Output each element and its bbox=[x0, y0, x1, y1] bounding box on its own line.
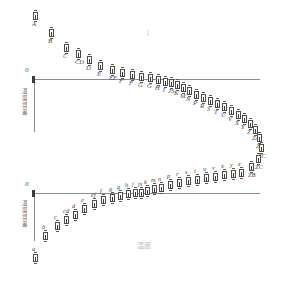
lower-y-axis-label: 温度误差 bbox=[20, 200, 29, 228]
error-bar-cap-bottom bbox=[178, 188, 181, 189]
error-bar-cap-bottom bbox=[205, 183, 208, 184]
error-bar-cap-top bbox=[102, 194, 105, 195]
error-bar-box bbox=[92, 200, 97, 208]
data-point-label: x bbox=[221, 163, 224, 170]
data-point-label: f bbox=[100, 188, 102, 195]
error-bar-cap-bottom bbox=[240, 178, 243, 179]
data-point-label: z bbox=[238, 161, 241, 168]
error-bar-box bbox=[101, 196, 106, 204]
error-bar-cap-bottom bbox=[65, 225, 68, 226]
data-point-label: a bbox=[32, 246, 35, 253]
error-bar-cap-bottom bbox=[169, 190, 172, 191]
error-bar-cap-bottom bbox=[160, 193, 163, 194]
error-bar-box bbox=[204, 174, 209, 182]
error-bar-cap-bottom bbox=[187, 186, 190, 187]
error-bar-cap-top bbox=[196, 174, 199, 175]
error-bar-box bbox=[43, 232, 48, 240]
error-bar-cap-bottom bbox=[44, 241, 47, 242]
data-point-label: cd bbox=[63, 208, 69, 215]
error-bar-box bbox=[139, 189, 144, 197]
error-bar-box bbox=[82, 205, 87, 213]
error-bar-box bbox=[33, 254, 38, 262]
error-bar-box bbox=[168, 181, 173, 189]
error-bar-box bbox=[177, 179, 182, 187]
error-bar-cap-bottom bbox=[127, 199, 130, 200]
error-bar-cap-top bbox=[134, 187, 137, 188]
data-point-label: m bbox=[151, 177, 156, 184]
data-point-label: u bbox=[203, 166, 206, 173]
error-bar-cap-bottom bbox=[214, 182, 217, 183]
data-point-label: k bbox=[144, 179, 147, 186]
error-bar-cap-bottom bbox=[74, 220, 77, 221]
error-bar-cap-bottom bbox=[56, 231, 59, 232]
data-point-label: ef bbox=[91, 192, 96, 199]
error-bar-box bbox=[222, 171, 227, 179]
data-point-label: n bbox=[158, 176, 161, 183]
data-point-label: g bbox=[109, 186, 112, 193]
data-point-label: d bbox=[72, 203, 75, 210]
data-point-label: y bbox=[230, 162, 233, 169]
error-bar-box bbox=[239, 169, 244, 177]
error-bar-box bbox=[195, 176, 200, 184]
error-bar-cap-bottom bbox=[223, 180, 226, 181]
error-bar-cap-bottom bbox=[153, 194, 156, 195]
error-bar-cap-bottom bbox=[119, 201, 122, 202]
data-point-label: g bbox=[117, 184, 120, 191]
error-bar-cap-bottom bbox=[111, 203, 114, 204]
lower-x-axis-label: 温度 bbox=[137, 240, 151, 250]
error-bar-box bbox=[118, 192, 123, 200]
error-bar-box bbox=[159, 184, 164, 192]
error-bar-box bbox=[213, 173, 218, 181]
error-bar-box bbox=[145, 187, 150, 195]
error-bar-cap-bottom bbox=[134, 198, 137, 199]
chart-canvas: 0 温度误差 1 ABCCDDEEFFFGGHJJSKMNPRSTUVXYZZA… bbox=[0, 0, 281, 281]
error-bar-box bbox=[110, 194, 115, 202]
error-bar-cap-bottom bbox=[93, 209, 96, 210]
data-point-label: v bbox=[212, 165, 215, 172]
error-bar-cap-bottom bbox=[196, 185, 199, 186]
error-bar-cap-bottom bbox=[140, 198, 143, 199]
error-bar-box bbox=[133, 189, 138, 197]
error-bar-cap-bottom bbox=[232, 179, 235, 180]
error-bar-box bbox=[64, 216, 69, 224]
error-bar-box bbox=[186, 177, 191, 185]
error-bar-cap-bottom bbox=[83, 214, 86, 215]
data-point-label: s bbox=[185, 169, 188, 176]
data-point-label: js bbox=[138, 181, 142, 188]
error-bar-box bbox=[152, 185, 157, 193]
error-bar-cap-bottom bbox=[146, 196, 149, 197]
data-point-label: j bbox=[132, 181, 134, 188]
error-bar-box bbox=[55, 222, 60, 230]
data-point-label: b bbox=[42, 224, 45, 231]
lower-chart-panel: 0 温度误差 温度 abccddeeffgghjjskmnprstuvxyz bbox=[0, 0, 281, 281]
data-point-label: h bbox=[125, 182, 128, 189]
lower-origin-label: 0 bbox=[25, 180, 28, 188]
error-bar-box bbox=[126, 190, 131, 198]
error-bar-cap-bottom bbox=[34, 263, 37, 264]
error-bar-box bbox=[73, 211, 78, 219]
data-point-label: c bbox=[54, 214, 57, 221]
data-point-label: e bbox=[81, 197, 84, 204]
data-point-label: p bbox=[167, 173, 170, 180]
data-point-label: r bbox=[176, 171, 179, 178]
lower-y-axis bbox=[34, 193, 35, 241]
data-point-label: t bbox=[194, 168, 196, 175]
error-bar-box bbox=[231, 170, 236, 178]
lower-origin-tick bbox=[32, 190, 35, 197]
error-bar-cap-bottom bbox=[102, 205, 105, 206]
